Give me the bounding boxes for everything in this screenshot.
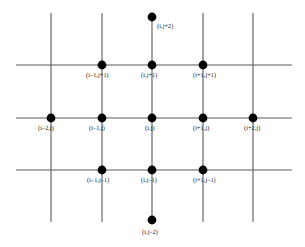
grid-node-i-jp1 [148, 61, 157, 70]
grid-node-im2-j [47, 114, 56, 123]
node-label-ip1-j: (i+1,j) [193, 124, 209, 131]
grid-node-ip1-j [199, 114, 208, 123]
node-label-ip1-jm1: (i+1,j–1) [193, 176, 216, 183]
grid-node-i-j [148, 114, 157, 123]
grid-node-i-jm2 [148, 216, 157, 225]
node-label-im1-jm1: (i–1,j–1) [87, 176, 109, 183]
node-label-ip2-j: (i+2,j) [244, 124, 260, 131]
grid-node-im1-jm1 [98, 166, 107, 175]
node-label-i-jp1: (i,j+1) [141, 71, 157, 78]
grid-node-ip1-jp1 [199, 61, 208, 70]
node-label-i-jp2: (i,j+2) [157, 22, 173, 29]
grid-node-im1-j [98, 114, 107, 123]
grid-node-i-jp2 [148, 13, 157, 22]
node-label-i-j: (i,j) [145, 124, 155, 131]
grid-node-ip2-j [249, 114, 258, 123]
grid-node-im1-jp1 [98, 61, 107, 70]
node-label-i-jm2: (i,j–2) [142, 228, 158, 235]
node-label-im1-jp1: (i–1,j+1) [86, 71, 109, 78]
node-label-im2-j: (i–2,j) [38, 124, 54, 131]
node-label-im1-j: (i–1,j) [89, 124, 105, 131]
node-label-i-jm1: (i,j–1) [141, 176, 157, 183]
stencil-figure: (i,j+2)(i–1,j+1)(i,j+1)(i+1,j+1)(i–2,j)(… [0, 0, 305, 247]
node-label-ip1-jp1: (i+1,j+1) [193, 71, 216, 78]
grid-node-i-jm1 [148, 166, 157, 175]
grid-node-ip1-jm1 [199, 166, 208, 175]
